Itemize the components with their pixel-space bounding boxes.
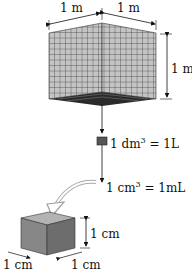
cm3-label: 1 cm3 = 1mL <box>106 181 185 194</box>
small-cube-width-label: 1 cm <box>3 259 33 271</box>
small-cube-depth-label: 1 cm <box>71 259 101 271</box>
dm3-label: 1 dm3 = 1L <box>110 137 179 150</box>
big-cube-depth-label: 1 m <box>117 2 140 14</box>
big-cube-height-label: 1 m <box>171 63 192 75</box>
small-cube-height-label: 1 cm <box>90 228 120 240</box>
small-cube <box>21 212 75 255</box>
big-cube <box>49 23 156 106</box>
dm3-cube <box>97 137 107 145</box>
big-cube-width-label: 1 m <box>60 2 83 14</box>
